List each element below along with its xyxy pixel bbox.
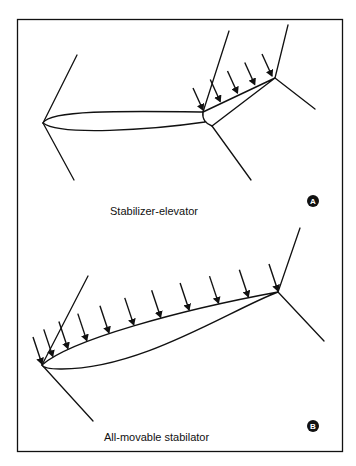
panel-a-load-arrow [245,63,255,85]
panel-a-stabilizer-airfoil [43,111,205,130]
panel-b-load-arrow [33,337,42,364]
panel-a-load-arrow [228,71,238,93]
panel-b-load-arrow [152,290,161,317]
panel-a-hinge-upper-line [203,31,229,112]
panel-a-trailing-edge-upper-line [275,25,288,78]
panel-a-badge-label: A [310,197,316,206]
panel-b: All-movable stabilator B [33,228,324,443]
figure: Stabilizer-elevator A All-movable stabil… [0,0,356,466]
panel-b-load-arrow [125,298,134,325]
panel-b-load-arrow [78,314,87,341]
panel-b-load-arrow [100,306,109,333]
panel-b-stabilator-airfoil [42,292,278,369]
panel-a: Stabilizer-elevator A [43,25,319,217]
panel-b-load-arrow [210,276,219,303]
panel-b-load-arrow [269,264,278,291]
panel-a-leading-edge-upper-line [43,55,77,123]
panel-a-hinge-lower-line [212,126,251,180]
figure-frame [18,20,343,452]
panel-b-load-arrow [239,270,248,297]
panel-a-load-arrow [262,54,272,76]
panel-b-load-arrow [180,283,189,310]
panel-a-load-arrow [210,80,220,102]
panel-a-elevator [203,78,275,126]
panel-b-trailing-edge-lower-line [278,292,324,341]
panel-b-trailing-edge-upper-line [278,228,300,292]
diagram-canvas: Stabilizer-elevator A All-movable stabil… [0,0,356,466]
panel-a-leading-edge-lower-line [43,123,74,180]
panel-a-trailing-edge-lower-line [275,78,315,109]
panel-a-load-arrow [193,88,203,110]
panel-b-leading-edge-lower-line [42,365,93,421]
panel-a-caption: Stabilizer-elevator [110,205,198,217]
panel-b-load-arrow [59,322,68,349]
panel-b-badge-label: B [310,422,316,431]
panel-b-caption: All-movable stabilator [104,431,209,443]
